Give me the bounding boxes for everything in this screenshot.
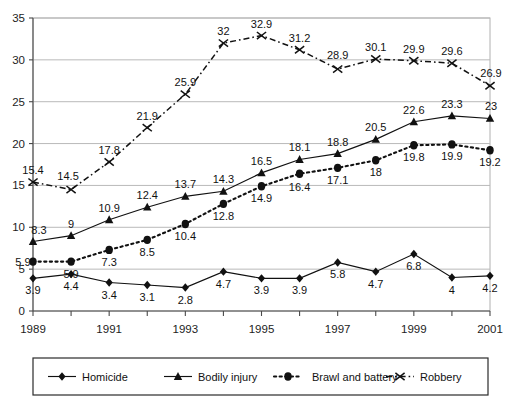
data-label: 4.7 xyxy=(216,278,231,290)
data-label: 28.9 xyxy=(327,49,348,61)
data-point-marker xyxy=(29,274,36,282)
data-point-marker xyxy=(296,274,303,282)
data-label: 4.4 xyxy=(63,280,78,292)
data-label: 21.9 xyxy=(137,110,158,122)
data-label: 3.9 xyxy=(25,284,40,296)
data-point-marker xyxy=(334,164,341,172)
data-label: 15.4 xyxy=(22,164,43,176)
legend-label: Homicide xyxy=(82,371,128,383)
y-tick-label: 10 xyxy=(12,221,25,233)
data-point-marker xyxy=(410,141,417,149)
data-point-marker xyxy=(372,156,379,164)
data-label: 19.2 xyxy=(479,156,500,168)
data-label: 20.5 xyxy=(365,121,386,133)
y-tick-label: 20 xyxy=(12,138,25,150)
data-point-marker xyxy=(105,158,114,165)
series-line xyxy=(33,116,490,242)
data-label: 7.3 xyxy=(102,256,117,268)
data-label: 19.8 xyxy=(403,151,424,163)
data-label: 5.9 xyxy=(63,268,78,280)
data-point-marker xyxy=(333,65,342,72)
data-label: 18.1 xyxy=(289,141,310,153)
data-point-marker xyxy=(486,272,493,280)
data-point-marker xyxy=(448,140,455,148)
data-point-marker xyxy=(66,186,75,193)
data-point-marker xyxy=(486,146,493,154)
legend-label: Brawl and battery xyxy=(312,371,398,383)
x-tick-label: 2001 xyxy=(477,323,503,335)
data-label: 8.5 xyxy=(140,246,155,258)
data-label: 31.2 xyxy=(289,32,310,44)
legend-item-brawl-and-battery[interactable]: Brawl and battery xyxy=(274,371,398,383)
y-tick-label: 35 xyxy=(12,12,25,24)
data-label: 22.6 xyxy=(403,104,424,116)
x-tick-label: 1991 xyxy=(96,323,122,335)
data-label: 10.9 xyxy=(98,202,119,214)
x-tick-label: 1993 xyxy=(173,323,199,335)
data-point-marker xyxy=(295,46,304,53)
data-point-marker xyxy=(219,187,227,195)
data-label: 6.8 xyxy=(406,260,421,272)
data-point-marker xyxy=(284,372,291,380)
data-label: 4.2 xyxy=(482,282,497,294)
series-bodily-injury: 8.3910.912.413.714.316.518.118.820.522.6… xyxy=(29,98,497,245)
data-label: 30.1 xyxy=(365,41,386,53)
y-tick-label: 15 xyxy=(12,179,25,191)
data-label: 17.1 xyxy=(327,174,348,186)
data-label: 32.9 xyxy=(251,18,272,30)
data-label: 10.4 xyxy=(175,230,196,242)
data-point-marker xyxy=(448,112,456,120)
chart-canvas: 0510152025303519891991199319951997199920… xyxy=(0,0,522,407)
legend-label: Bodily injury xyxy=(198,371,258,383)
data-label: 19.9 xyxy=(441,150,462,162)
data-point-marker xyxy=(106,278,113,286)
data-label: 16.5 xyxy=(251,155,272,167)
data-label: 2.8 xyxy=(178,294,193,306)
data-point-marker xyxy=(410,250,417,258)
data-point-marker xyxy=(58,372,65,380)
data-point-marker xyxy=(371,55,380,62)
data-label: 14.3 xyxy=(213,173,234,185)
y-tick-label: 0 xyxy=(19,305,25,317)
legend-item-homicide[interactable]: Homicide xyxy=(48,371,128,383)
legend-label: Robbery xyxy=(420,371,462,383)
data-label: 29.9 xyxy=(403,43,424,55)
x-tick-label: 1999 xyxy=(401,323,427,335)
data-label: 14.5 xyxy=(57,170,78,182)
data-point-marker xyxy=(181,91,190,98)
data-point-marker xyxy=(144,281,151,289)
x-tick-label: 1995 xyxy=(249,323,275,335)
data-point-marker xyxy=(258,274,265,282)
series-homicide: 3.94.43.43.12.84.73.93.95.84.76.844.2 xyxy=(25,250,497,306)
y-tick-label: 30 xyxy=(12,54,25,66)
data-label: 9 xyxy=(68,218,74,230)
data-label: 12.8 xyxy=(213,210,234,222)
data-point-marker xyxy=(67,257,74,265)
data-point-marker xyxy=(448,273,455,281)
data-label: 25.9 xyxy=(175,76,196,88)
data-point-marker xyxy=(67,231,75,239)
data-point-marker xyxy=(220,200,227,208)
data-label: 23 xyxy=(485,100,497,112)
data-label: 4.7 xyxy=(368,278,383,290)
data-label: 8.3 xyxy=(31,224,46,236)
data-label: 5.8 xyxy=(330,268,345,280)
data-point-marker xyxy=(372,135,380,143)
data-label: 14.9 xyxy=(251,192,272,204)
data-point-marker xyxy=(144,236,151,244)
data-label: 18 xyxy=(370,166,382,178)
data-point-marker xyxy=(334,258,341,266)
data-label: 4 xyxy=(449,284,455,296)
data-label: 12.4 xyxy=(137,189,158,201)
data-point-marker xyxy=(182,220,189,228)
data-label: 26.9 xyxy=(480,67,501,79)
legend-item-bodily-injury[interactable]: Bodily injury xyxy=(164,371,258,383)
data-label: 3.9 xyxy=(254,284,269,296)
data-label: 18.8 xyxy=(327,136,348,148)
data-point-marker xyxy=(143,124,152,131)
x-tick-label: 1989 xyxy=(20,323,46,335)
data-label: 3.4 xyxy=(102,289,117,301)
x-tick-label: 1997 xyxy=(325,323,351,335)
data-label: 23.3 xyxy=(441,98,462,110)
y-tick-label: 25 xyxy=(12,96,25,108)
